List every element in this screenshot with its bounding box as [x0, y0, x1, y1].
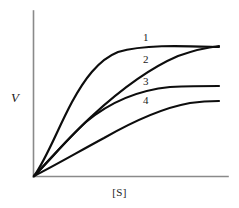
curve-label-4: 4 — [143, 95, 149, 106]
y-axis-label: V — [11, 91, 19, 104]
curve-2 — [34, 46, 219, 176]
curve-3 — [34, 86, 219, 176]
curve-1 — [34, 46, 219, 176]
enzyme-kinetics-figure: 1 2 3 4 V [S] — [0, 0, 239, 208]
curve-label-1: 1 — [143, 32, 149, 43]
curve-label-3: 3 — [143, 76, 149, 87]
curve-4 — [34, 101, 219, 176]
curve-label-2: 2 — [143, 54, 149, 65]
plot-area — [0, 0, 239, 208]
x-axis-label: [S] — [0, 187, 239, 198]
